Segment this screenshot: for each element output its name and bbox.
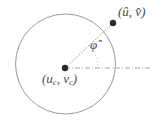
radial-line (65, 23, 113, 68)
center-point-dot (62, 65, 68, 71)
angle-arc (89, 46, 98, 69)
outer-point-dot (110, 20, 116, 26)
main-circle (16, 14, 116, 114)
figure-canvas: (û, v̂) (uc, vc) φ̂ (0, 0, 161, 127)
diagram-svg (0, 0, 161, 127)
